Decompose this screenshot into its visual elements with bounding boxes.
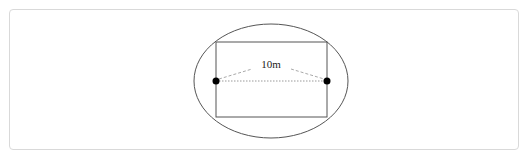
inner-rectangle: [216, 42, 327, 117]
distance-label: 10m: [261, 58, 281, 70]
label-leader-right: [291, 69, 324, 79]
point-left-dot: [213, 78, 220, 85]
diagram-canvas: 10m: [0, 0, 530, 161]
point-right-dot: [324, 78, 331, 85]
label-leader-left: [219, 69, 252, 79]
